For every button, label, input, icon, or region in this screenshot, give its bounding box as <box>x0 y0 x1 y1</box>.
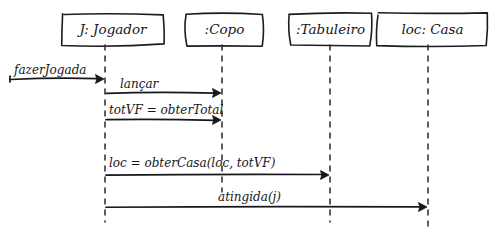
message-line-msg-lancar <box>106 92 215 93</box>
messages-layer: fazerJogadalançartotVF = obterTotalloc =… <box>10 63 427 211</box>
message-msg-fazer-jogada[interactable]: fazerJogada <box>10 63 104 83</box>
message-arrowhead-msg-atingida <box>419 203 428 212</box>
lifeline-label-copo: :Copo <box>205 21 245 37</box>
lifeline-label-tabuleiro: :Tabuleiro <box>296 21 365 37</box>
message-label-msg-fazer-jogada: fazerJogada <box>13 63 86 77</box>
lifeline-casa[interactable]: loc: Casa <box>376 13 487 228</box>
message-line-msg-atingida <box>106 207 421 208</box>
message-arrowhead-msg-lancar <box>213 89 222 98</box>
message-arrowhead-msg-fazer-jogada <box>96 75 105 84</box>
lifeline-tabuleiro[interactable]: :Tabuleiro <box>289 13 372 222</box>
sequence-diagram-canvas: J: Jogador:Copo:Tabuleiroloc: Casa fazer… <box>0 0 497 232</box>
message-line-msg-obter-casa <box>106 174 323 175</box>
message-msg-atingida[interactable]: atingida(j) <box>106 190 427 211</box>
message-msg-obter-total[interactable]: totVF = obterTotal <box>106 103 223 124</box>
lifeline-label-casa: loc: Casa <box>401 21 463 37</box>
message-line-msg-obter-total <box>106 119 215 120</box>
lifeline-label-jogador: J: Jogador <box>76 21 148 37</box>
lifeline-jogador[interactable]: J: Jogador <box>62 14 165 222</box>
message-msg-lancar[interactable]: lançar <box>106 77 221 97</box>
message-msg-obter-casa[interactable]: loc = obterCasa(loc, totVF) <box>106 156 329 179</box>
message-label-msg-obter-total: totVF = obterTotal <box>109 103 223 117</box>
message-label-msg-atingida: atingida(j) <box>218 190 281 204</box>
message-label-msg-obter-casa: loc = obterCasa(loc, totVF) <box>109 156 276 170</box>
sequence-diagram: J: Jogador:Copo:Tabuleiroloc: Casa fazer… <box>0 0 497 232</box>
message-arrowhead-msg-obter-casa <box>321 171 330 180</box>
message-label-msg-lancar: lançar <box>120 77 160 91</box>
message-line-msg-fazer-jogada <box>10 78 98 79</box>
